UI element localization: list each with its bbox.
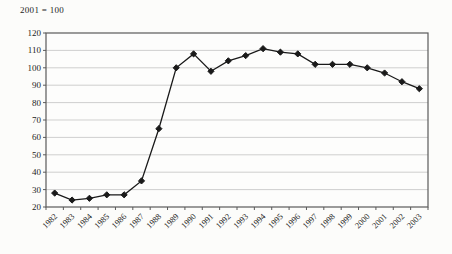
chart-page: 2001 = 100 20304050607080901001101201982… (0, 0, 452, 254)
x-axis-label: 1991 (196, 211, 215, 230)
x-axis-label: 1985 (92, 211, 111, 230)
x-axis-label: 1998 (318, 211, 337, 230)
x-axis-label: 1990 (179, 211, 198, 230)
x-axis-label: 2000 (353, 211, 372, 230)
y-axis-label: 80 (32, 98, 42, 108)
x-axis-label: 1992 (214, 211, 233, 230)
y-axis-label: 50 (32, 150, 42, 160)
x-axis-label: 1994 (248, 211, 268, 231)
x-axis-label: 2002 (387, 211, 406, 230)
line-chart: 2030405060708090100110120198219831984198… (0, 0, 452, 254)
y-axis-label: 70 (32, 115, 42, 125)
x-axis-label: 1988 (144, 211, 163, 230)
x-axis-label: 1986 (109, 211, 128, 230)
x-axis-label: 1995 (266, 211, 285, 230)
y-axis-label: 90 (32, 80, 42, 90)
x-axis-label: 2001 (370, 211, 389, 230)
x-axis-label: 1983 (57, 211, 76, 230)
y-axis-label: 40 (32, 167, 42, 177)
y-axis-label: 100 (28, 63, 42, 73)
x-axis-label: 1993 (231, 211, 250, 230)
x-axis-label: 1989 (162, 211, 181, 230)
y-axis-label: 20 (32, 202, 42, 212)
y-axis-label: 60 (32, 132, 42, 142)
x-axis-label: 1982 (40, 211, 59, 230)
x-axis-label: 1999 (335, 211, 354, 230)
x-axis-label: 1987 (127, 211, 146, 230)
x-axis-label: 1984 (75, 211, 95, 231)
x-axis-label: 1997 (300, 211, 319, 230)
x-axis-label: 2003 (405, 211, 424, 230)
y-axis-label: 30 (32, 185, 42, 195)
y-axis-label: 120 (28, 28, 42, 38)
x-axis-label: 1996 (283, 211, 302, 230)
y-axis-label: 110 (28, 45, 42, 55)
